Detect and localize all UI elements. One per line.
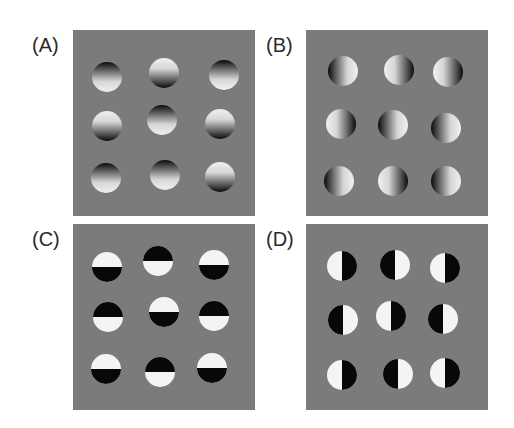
circle-stimulus <box>378 110 408 140</box>
circle-stimulus <box>431 166 461 196</box>
circle-stimulus <box>91 354 121 384</box>
circle-stimulus <box>428 304 458 334</box>
circle-stimulus <box>376 301 406 331</box>
circle-stimulus <box>92 62 122 92</box>
circle-stimulus <box>328 305 358 335</box>
circle-stimulus <box>205 109 235 139</box>
circle-stimulus <box>147 105 177 135</box>
panel-b-label: (B) <box>266 35 293 55</box>
circle-stimulus <box>91 163 121 193</box>
panel-b-shaded-horizontal <box>306 30 488 216</box>
circle-stimulus <box>327 360 357 390</box>
circle-stimulus <box>199 301 229 331</box>
circle-stimulus <box>384 55 414 85</box>
circle-stimulus <box>92 252 122 282</box>
panel-d-label: (D) <box>266 229 294 249</box>
circle-stimulus <box>149 58 179 88</box>
circle-stimulus <box>143 246 173 276</box>
circle-stimulus <box>145 357 175 387</box>
circle-stimulus <box>149 297 179 327</box>
circle-stimulus <box>324 166 354 196</box>
circle-stimulus <box>431 113 461 143</box>
panel-c-split-horizontal <box>73 224 255 410</box>
circle-stimulus <box>383 359 413 389</box>
circle-stimulus <box>430 253 460 283</box>
circle-stimulus <box>92 111 122 141</box>
panel-a-label: (A) <box>32 35 59 55</box>
circle-stimulus <box>326 109 356 139</box>
circle-stimulus <box>430 358 460 388</box>
circle-stimulus <box>150 160 180 190</box>
circle-stimulus <box>197 353 227 383</box>
circle-stimulus <box>209 60 239 90</box>
circle-stimulus <box>327 251 357 281</box>
circle-stimulus <box>378 166 408 196</box>
circle-stimulus <box>380 250 410 280</box>
panel-a-shaded-vertical <box>73 30 255 216</box>
circle-stimulus <box>205 162 235 192</box>
circle-stimulus <box>433 57 463 87</box>
panel-c-label: (C) <box>32 229 60 249</box>
circle-stimulus <box>328 56 358 86</box>
panel-d-split-vertical <box>306 224 488 410</box>
circle-stimulus <box>199 250 229 280</box>
circle-stimulus <box>93 302 123 332</box>
